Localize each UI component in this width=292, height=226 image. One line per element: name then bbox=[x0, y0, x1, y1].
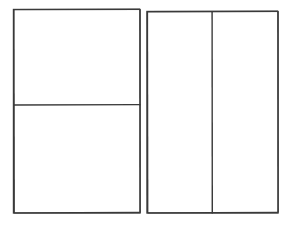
right-container-bottom-edge bbox=[148, 212, 279, 213]
wireframe-drawing bbox=[0, 0, 292, 226]
diagram-canvas bbox=[0, 0, 292, 226]
left-container[interactable] bbox=[14, 9, 141, 213]
left-top-panel[interactable] bbox=[14, 10, 139, 105]
left-container-bottom-edge bbox=[14, 212, 140, 213]
left-bottom-panel[interactable] bbox=[14, 106, 139, 213]
right-container[interactable] bbox=[147, 11, 278, 213]
right-container-top-edge bbox=[147, 11, 278, 12]
right-left-panel[interactable] bbox=[148, 12, 212, 212]
right-right-panel[interactable] bbox=[213, 12, 278, 212]
